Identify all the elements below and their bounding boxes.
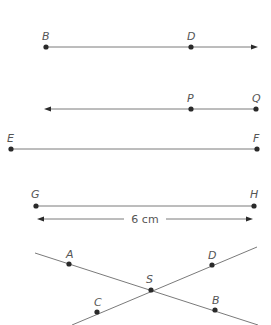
point-p bbox=[188, 106, 193, 111]
label-p: P bbox=[187, 92, 194, 105]
point-e bbox=[8, 146, 13, 151]
arrowhead-left-icon bbox=[37, 217, 44, 222]
point-d2 bbox=[209, 262, 214, 267]
label-b: B bbox=[42, 30, 50, 43]
point-g bbox=[33, 203, 38, 208]
point-s bbox=[148, 287, 153, 292]
intersecting-lines: A D S C B bbox=[35, 247, 258, 325]
label-c: C bbox=[94, 296, 102, 309]
label-e: E bbox=[7, 132, 14, 145]
line-cd bbox=[72, 247, 257, 325]
arrowhead-right-icon bbox=[251, 45, 258, 50]
arrowhead-left-icon bbox=[44, 107, 51, 112]
point-a bbox=[66, 261, 71, 266]
point-b bbox=[43, 44, 48, 49]
point-b2 bbox=[212, 307, 217, 312]
point-h bbox=[251, 203, 256, 208]
arrowhead-right-icon bbox=[246, 217, 253, 222]
label-h: H bbox=[250, 188, 258, 201]
label-q: Q bbox=[252, 92, 261, 105]
label-s: S bbox=[146, 273, 153, 286]
segment-ef: E F bbox=[7, 132, 260, 152]
label-a: A bbox=[65, 248, 74, 261]
point-q bbox=[253, 106, 258, 111]
geometry-diagram: B D P Q E F G H 6 cm bbox=[0, 0, 271, 325]
segment-gh: G H 6 cm bbox=[31, 188, 258, 226]
label-d: D bbox=[187, 30, 195, 43]
label-d2: D bbox=[208, 249, 216, 262]
ray-bd: B D bbox=[42, 30, 258, 50]
dimension-arrow: 6 cm bbox=[37, 213, 253, 226]
label-b2: B bbox=[212, 294, 220, 307]
point-d bbox=[188, 44, 193, 49]
ray-qp: P Q bbox=[44, 92, 261, 112]
label-f: F bbox=[253, 132, 260, 145]
label-g: G bbox=[31, 188, 40, 201]
point-c bbox=[94, 309, 99, 314]
dimension-label: 6 cm bbox=[131, 213, 158, 226]
point-f bbox=[254, 146, 259, 151]
